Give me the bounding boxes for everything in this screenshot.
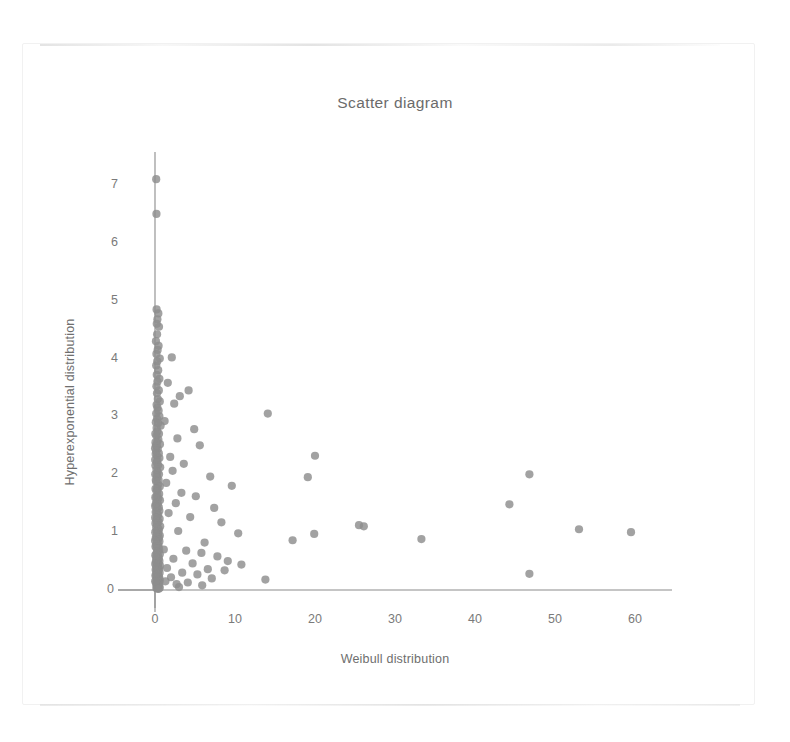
data-point — [208, 574, 216, 582]
data-point — [151, 485, 159, 493]
data-point — [164, 379, 172, 387]
data-point — [193, 570, 201, 578]
x-tick-label: 10 — [215, 612, 255, 626]
data-point — [417, 535, 425, 543]
data-point — [152, 175, 160, 183]
data-point — [151, 502, 159, 510]
data-point — [166, 453, 174, 461]
data-point — [169, 467, 177, 475]
data-point — [169, 555, 177, 563]
data-point — [627, 528, 635, 536]
data-point — [525, 570, 533, 578]
data-point — [151, 514, 159, 522]
data-point — [192, 492, 200, 500]
data-point — [210, 504, 218, 512]
data-point — [234, 529, 242, 537]
data-point — [237, 560, 245, 568]
x-tick-label: 0 — [135, 612, 175, 626]
data-point — [311, 452, 319, 460]
data-point — [261, 575, 269, 583]
data-point — [163, 564, 171, 572]
x-axis-title: Weibull distribution — [155, 652, 635, 666]
data-point — [197, 549, 205, 557]
data-point — [189, 559, 197, 567]
data-point — [201, 538, 209, 546]
data-point — [185, 386, 193, 394]
data-point — [204, 565, 212, 573]
data-point — [151, 537, 159, 545]
x-tick-label: 60 — [615, 612, 655, 626]
scatter-diagram-page: Scatter diagram 0102030405060 01234567 H… — [0, 0, 790, 742]
data-point — [151, 430, 159, 438]
data-point — [505, 500, 513, 508]
data-point — [155, 585, 163, 593]
data-point — [176, 392, 184, 400]
data-point — [177, 489, 185, 497]
data-point — [151, 456, 159, 464]
data-point — [186, 513, 194, 521]
data-point — [224, 557, 232, 565]
data-point — [575, 525, 583, 533]
data-point — [151, 560, 159, 568]
data-point — [190, 425, 198, 433]
data-point — [151, 551, 159, 559]
data-point — [213, 552, 221, 560]
data-point — [172, 499, 180, 507]
data-point — [165, 509, 173, 517]
data-point — [196, 441, 204, 449]
data-point — [525, 470, 533, 478]
y-tick-label: 1 — [88, 524, 118, 538]
data-point — [289, 536, 297, 544]
y-tick-label: 0 — [84, 582, 114, 596]
data-point — [178, 569, 186, 577]
y-tick-label: 3 — [88, 408, 118, 422]
x-tick-label: 50 — [535, 612, 575, 626]
data-point — [153, 330, 161, 338]
data-point — [173, 434, 181, 442]
y-tick-label: 5 — [88, 293, 118, 307]
data-point — [228, 482, 236, 490]
data-point — [217, 518, 225, 526]
data-point — [360, 522, 368, 530]
data-point — [180, 460, 188, 468]
scatter-plot-canvas — [0, 0, 790, 742]
x-tick-label: 20 — [295, 612, 335, 626]
data-point — [151, 470, 159, 478]
data-point — [221, 566, 229, 574]
data-point — [175, 583, 183, 591]
data-point — [182, 547, 190, 555]
data-point — [184, 578, 192, 586]
data-point — [198, 581, 206, 589]
data-point — [168, 353, 176, 361]
data-point — [151, 493, 159, 501]
data-point — [152, 210, 160, 218]
y-tick-label: 2 — [88, 466, 118, 480]
x-tick-label: 40 — [455, 612, 495, 626]
y-tick-label: 6 — [88, 235, 118, 249]
y-tick-label: 7 — [88, 177, 118, 191]
data-point — [151, 528, 159, 536]
data-point — [304, 473, 312, 481]
data-point — [310, 530, 318, 538]
data-point — [170, 400, 178, 408]
data-point — [264, 409, 272, 417]
data-point — [206, 473, 214, 481]
x-tick-label: 30 — [375, 612, 415, 626]
tick-marks — [118, 590, 155, 608]
y-axis-title: Hyperexponential distribution — [63, 272, 77, 532]
data-point — [151, 444, 159, 452]
data-point — [174, 527, 182, 535]
y-tick-label: 4 — [88, 351, 118, 365]
data-point — [155, 323, 163, 331]
data-point — [151, 577, 159, 585]
data-points-group — [151, 175, 635, 593]
data-point — [152, 418, 160, 426]
